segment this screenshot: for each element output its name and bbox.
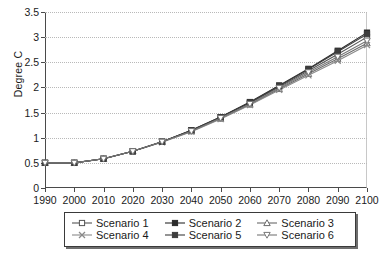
temperature-projection-chart: Degree C 00.511.522.533.5 19902000201020… [0, 0, 388, 270]
series-2 [42, 30, 369, 165]
plot-area: 00.511.522.533.5 19902000201020202030204… [45, 12, 367, 188]
data-point-filled-square [364, 32, 369, 37]
series-5 [42, 32, 369, 166]
chart-legend: Scenario 1Scenario 2Scenario 3 Scenario … [64, 212, 356, 247]
data-point-filled-square [172, 220, 177, 225]
legend-label: Scenario 1 [96, 217, 149, 229]
legend-swatch-filled-square [164, 229, 186, 241]
series-6 [42, 38, 370, 166]
data-point-filled-square [335, 49, 340, 54]
x-tick-mark [191, 188, 192, 192]
legend-entry-scenario-1[interactable]: Scenario 1 [71, 217, 164, 229]
x-tick-mark [133, 188, 134, 192]
legend-swatch-cross [71, 229, 93, 241]
x-tick-label: 2020 [121, 194, 144, 206]
y-tick-label: 0.5 [24, 157, 39, 169]
x-tick-label: 2050 [209, 194, 232, 206]
x-tick-mark [250, 188, 251, 192]
data-point-filled-square [172, 232, 177, 237]
y-tick-label: 3 [33, 31, 39, 43]
legend-label: Scenario 2 [189, 217, 242, 229]
series-line [45, 34, 367, 163]
legend-row: Scenario 4Scenario 5Scenario 6 [71, 229, 349, 241]
data-point-open-square [79, 220, 84, 225]
legend-swatch-up-triangle [256, 217, 278, 229]
x-tick-mark [308, 188, 309, 192]
series-line [45, 41, 367, 163]
series-3 [42, 40, 370, 165]
y-tick-label: 2 [33, 81, 39, 93]
series-1 [42, 35, 369, 166]
x-tick-label: 2040 [180, 194, 203, 206]
legend-entry-scenario-3[interactable]: Scenario 3 [256, 217, 349, 229]
legend-swatch-filled-square [164, 217, 186, 229]
legend-swatch-open-square [71, 217, 93, 229]
series-line [45, 33, 367, 163]
x-tick-label: 2100 [355, 194, 378, 206]
x-tick-label: 2070 [267, 194, 290, 206]
legend-swatch-down-triangle [256, 229, 278, 241]
x-tick-mark [367, 188, 368, 192]
y-tick-label: 1 [33, 132, 39, 144]
y-tick-label: 3.5 [24, 6, 39, 18]
x-tick-label: 2030 [150, 194, 173, 206]
x-tick-label: 2010 [92, 194, 115, 206]
legend-entry-scenario-6[interactable]: Scenario 6 [256, 229, 349, 241]
x-tick-mark [221, 188, 222, 192]
x-tick-label: 1990 [33, 194, 56, 206]
x-tick-mark [104, 188, 105, 192]
legend-entry-scenario-2[interactable]: Scenario 2 [164, 217, 257, 229]
legend-entry-scenario-5[interactable]: Scenario 5 [164, 229, 257, 241]
x-tick-mark [74, 188, 75, 192]
x-tick-label: 2000 [63, 194, 86, 206]
legend-label: Scenario 4 [96, 229, 149, 241]
x-tick-mark [162, 188, 163, 192]
legend-row: Scenario 1Scenario 2Scenario 3 [71, 217, 349, 229]
y-tick-label: 1.5 [24, 107, 39, 119]
series-line [45, 37, 367, 163]
y-tick-label: 2.5 [24, 56, 39, 68]
legend-label: Scenario 5 [189, 229, 242, 241]
series-plot [45, 12, 367, 188]
legend-entry-scenario-4[interactable]: Scenario 4 [71, 229, 164, 241]
x-tick-mark [45, 188, 46, 192]
x-tick-mark [338, 188, 339, 192]
y-tick-label: 0 [33, 182, 39, 194]
legend-label: Scenario 6 [281, 229, 334, 241]
x-tick-label: 2060 [238, 194, 261, 206]
y-axis-title: Degree C [12, 14, 24, 134]
legend-label: Scenario 3 [281, 217, 334, 229]
x-tick-label: 2090 [326, 194, 349, 206]
series-line [45, 43, 367, 163]
x-tick-label: 2080 [297, 194, 320, 206]
x-tick-mark [279, 188, 280, 192]
